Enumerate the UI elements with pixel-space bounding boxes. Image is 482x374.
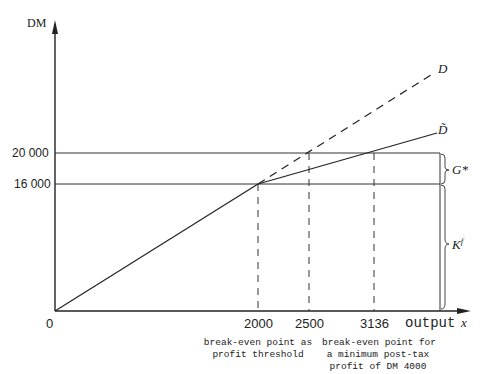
annotation-1-line-1: break-even point as <box>202 337 314 349</box>
curve-d-tilde-segment-1 <box>55 184 258 311</box>
k-f-label: Kf <box>452 236 463 253</box>
y-axis-arrow-icon <box>52 20 58 34</box>
curve-d-label: D <box>438 61 447 77</box>
annotation-profit-threshold: break-even point as profit threshold <box>202 337 314 361</box>
curve-d-tilde-label: D̃ <box>438 122 447 138</box>
y-tick-20000: 20 000 <box>12 146 49 160</box>
x-tick-2500: 2500 <box>295 316 324 331</box>
k-f-base: K <box>452 237 461 252</box>
brace-k-f <box>441 185 449 309</box>
k-f-sup: f <box>461 236 464 246</box>
annotation-min-post-tax: break-even point for a minimum post-tax … <box>322 337 434 373</box>
y-tick-16000: 16 000 <box>14 177 51 191</box>
annotation-2-line-1: break-even point for <box>322 337 434 349</box>
origin-label: 0 <box>46 316 53 331</box>
brace-g-star <box>441 154 449 184</box>
curve-d-dashed <box>258 73 434 184</box>
x-tick-2000: 2000 <box>244 316 273 331</box>
annotation-2-line-3: profit of DM 4000 <box>322 361 434 373</box>
annotation-1-line-2: profit threshold <box>202 349 314 361</box>
curve-d-tilde-segment-2 <box>258 133 437 184</box>
annotation-2-line-2: a minimum post-tax <box>322 349 434 361</box>
x-axis-arrow-icon <box>457 308 471 314</box>
x-axis-label: output <box>405 315 455 331</box>
g-star-label: G* <box>452 162 468 178</box>
x-tick-3136: 3136 <box>360 316 389 331</box>
x-axis-symbol: x <box>461 315 467 331</box>
y-axis-label: DM <box>27 16 46 31</box>
